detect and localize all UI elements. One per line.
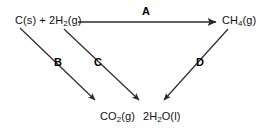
species-label-water: 2H2O(l) <box>143 111 180 124</box>
arrow-label-b: B <box>54 57 62 68</box>
arrow-label-c: C <box>94 57 102 68</box>
arrow-label-d: D <box>196 57 204 68</box>
arrow-label-a: A <box>142 6 150 17</box>
reaction-cycle-diagram: C(s) + 2H2(g) CH4(g) CO2(g) 2H2O(l) A B … <box>0 0 271 128</box>
species-label-carbon-dioxide: CO2(g) <box>100 111 135 124</box>
species-label-methane: CH4(g) <box>222 15 256 28</box>
species-label-reactants: C(s) + 2H2(g) <box>15 15 81 28</box>
